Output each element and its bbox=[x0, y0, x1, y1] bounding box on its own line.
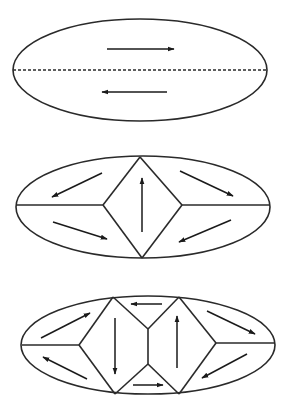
domain-wall bbox=[103, 157, 140, 205]
arrow-down-left-icon bbox=[52, 173, 102, 197]
domain-diagram bbox=[0, 0, 283, 413]
domain-wall bbox=[113, 297, 148, 329]
diagram-panel-1 bbox=[13, 19, 267, 121]
diagram-panel-2 bbox=[16, 156, 270, 258]
domain-wall bbox=[179, 297, 216, 343]
ellipse-outline bbox=[16, 156, 270, 258]
domain-wall bbox=[148, 297, 179, 329]
domain-wall bbox=[79, 345, 115, 394]
domain-wall bbox=[103, 205, 142, 258]
arrow-down-left-icon bbox=[202, 354, 247, 378]
arrow-down-right-icon bbox=[180, 171, 233, 196]
arrow-down-right-icon bbox=[53, 222, 107, 239]
arrow-up-right-icon bbox=[41, 313, 90, 338]
domain-wall bbox=[142, 205, 182, 258]
domain-wall bbox=[179, 343, 216, 394]
arrow-down-left-icon bbox=[179, 220, 231, 242]
diagram-panel-3 bbox=[21, 296, 275, 394]
domain-wall bbox=[148, 364, 179, 394]
domain-wall bbox=[79, 297, 113, 345]
domain-wall bbox=[140, 157, 182, 205]
domain-wall bbox=[115, 364, 148, 394]
